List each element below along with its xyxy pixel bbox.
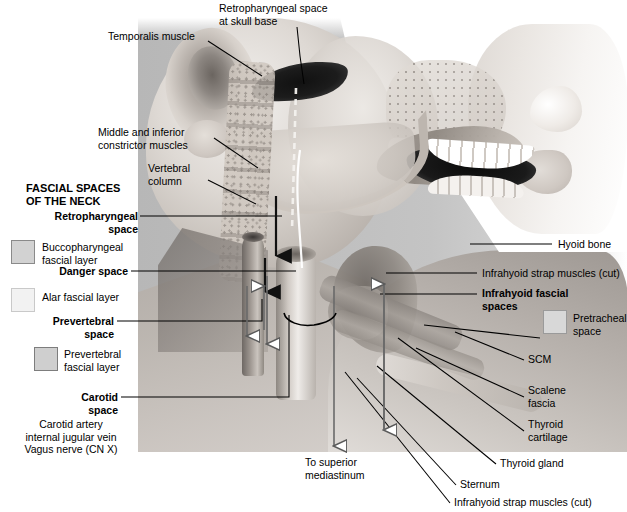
swatch-pretracheal-space: [543, 310, 567, 334]
label-infrahyoid-strap-muscles-cut-lower: Infrahyoid strap muscles (cut): [454, 496, 624, 509]
label-pretracheal-space: Pretracheal space: [573, 312, 627, 337]
label-danger-space: Danger space: [20, 265, 128, 278]
label-carotid-space-contents: Carotid artery internal jugular vein Vag…: [6, 418, 136, 456]
figure-root: Temporalis muscle Retropharyngeal space …: [0, 0, 627, 512]
label-infrahyoid-strap-muscles-cut-upper: Infrahyoid strap muscles (cut): [482, 267, 627, 280]
label-temporalis-muscle: Temporalis muscle: [108, 30, 208, 43]
label-sternum: Sternum: [460, 478, 530, 491]
label-buccopharyngeal-fascial-layer: Buccopharyngeal fascial layer: [42, 241, 142, 266]
label-alar-fascial-layer: Alar fascial layer: [42, 291, 144, 304]
carotid-sheath-vessel-lumen: [242, 232, 264, 242]
label-middle-and-inferior-constrictor-muscles: Middle and inferior constrictor muscles: [98, 126, 210, 151]
swatch-prevertebral-fascial-layer: [34, 347, 58, 371]
label-infrahyoid-fascial-spaces: Infrahyoid fascial spaces: [482, 287, 586, 312]
label-scalene-fascia: Scalene fascia: [528, 384, 584, 409]
label-prevertebral-fascial-layer: Prevertebral fascial layer: [64, 348, 160, 373]
laryngeal-inlet: [276, 246, 316, 262]
label-hyoid-bone: Hyoid bone: [558, 238, 627, 251]
label-to-superior-mediastinum: To superior mediastinum: [305, 456, 415, 481]
label-carotid-space: Carotid space: [20, 391, 118, 416]
label-thyroid-cartilage: Thyroid cartilage: [528, 418, 586, 443]
carotid-sheath-vessel: [242, 236, 264, 376]
label-prevertebral-space: Prevertebral space: [20, 315, 114, 340]
label-scm: SCM: [528, 353, 580, 366]
label-retropharyngeal-space: Retropharyngeal space: [20, 210, 138, 235]
label-thyroid-gland: Thyroid gland: [500, 457, 590, 470]
swatch-buccopharyngeal-fascial-layer: [11, 240, 35, 264]
swatch-alar-fascial-layer: [11, 288, 35, 312]
larynx-trachea: [276, 250, 316, 400]
label-retropharyngeal-space-at-skull-base: Retropharyngeal space at skull base: [219, 2, 379, 27]
label-vertebral-column: Vertebral column: [148, 162, 206, 187]
legend-title: FASCIAL SPACES OF THE NECK: [26, 182, 138, 208]
